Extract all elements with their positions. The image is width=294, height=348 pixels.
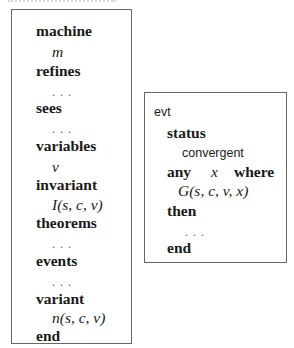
event-definition-box: evt status convergent any x where G(s, c… [144, 92, 287, 263]
machine-definition-box: machine m refines . . . sees . . . varia… [11, 9, 132, 344]
keyword-events: events [36, 253, 77, 269]
keyword-status: status [167, 125, 206, 141]
top-crop-artifact [8, 0, 116, 4]
keyword-where: where [234, 164, 274, 180]
keyword-refines: refines [36, 63, 80, 79]
keyword-machine: machine [36, 23, 92, 39]
invariant-value: I(s, c, v) [52, 197, 103, 213]
sees-ellipsis: . . . [52, 123, 72, 135]
event-name: evt [154, 106, 171, 119]
actions-ellipsis: . . . [185, 226, 205, 238]
variables-value: v [52, 159, 59, 175]
variant-value: n(s, c, v) [52, 310, 105, 326]
keyword-end: end [36, 328, 60, 344]
machine-name: m [52, 44, 63, 60]
keyword-invariant: invariant [36, 177, 97, 193]
keyword-variant: variant [36, 291, 84, 307]
keyword-theorems: theorems [36, 215, 97, 231]
keyword-then: then [167, 203, 196, 219]
event-parameter: x [211, 164, 218, 180]
keyword-variables: variables [36, 138, 96, 154]
keyword-sees: sees [36, 100, 62, 116]
guard-expression: G(s, c, v, x) [178, 183, 248, 199]
refines-ellipsis: . . . [52, 86, 72, 98]
status-value: convergent [182, 147, 244, 160]
keyword-any: any [167, 164, 191, 180]
theorems-ellipsis: . . . [52, 238, 72, 250]
events-ellipsis: . . . [52, 276, 72, 288]
keyword-end-event: end [167, 240, 191, 256]
